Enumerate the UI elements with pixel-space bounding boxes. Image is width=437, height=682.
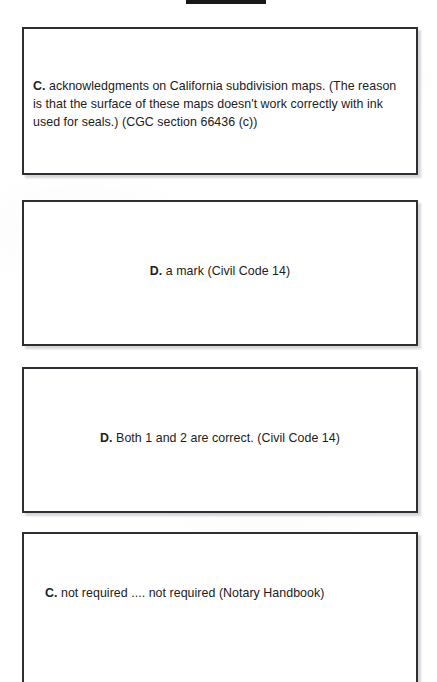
answer-option-letter-2: D. (150, 264, 163, 278)
answer-option-letter-4: C. (45, 586, 58, 600)
answer-body-2: a mark (Civil Code 14) (162, 264, 290, 278)
answer-box-4: C. not required .... not required (Notar… (22, 532, 418, 682)
answer-body-4: not required .... not required (Notary H… (58, 586, 325, 600)
answer-text-1: C. acknowledgments on California subdivi… (33, 77, 407, 132)
answer-box-2: D. a mark (Civil Code 14) (22, 200, 418, 346)
answer-text-2: D. a mark (Civil Code 14) (33, 262, 407, 280)
answer-body-3: Both 1 and 2 are correct. (Civil Code 14… (113, 431, 340, 445)
answer-text-4: C. not required .... not required (Notar… (33, 584, 407, 602)
answer-option-letter-3: D. (100, 431, 113, 445)
redaction-bar (186, 0, 266, 4)
answer-box-1: C. acknowledgments on California subdivi… (22, 27, 418, 175)
answer-body-1: acknowledgments on California subdivisio… (33, 79, 396, 129)
answer-box-3: D. Both 1 and 2 are correct. (Civil Code… (22, 367, 418, 513)
answer-option-letter-1: C. (33, 79, 46, 93)
answer-text-3: D. Both 1 and 2 are correct. (Civil Code… (33, 429, 407, 447)
